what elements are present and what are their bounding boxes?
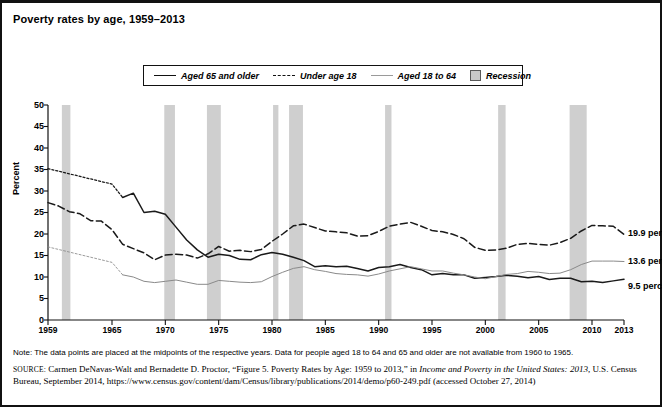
source-italic-2: 2013 <box>570 364 588 374</box>
figure-panel: Poverty rates by age, 1959–2013 Aged 65 … <box>0 0 662 407</box>
source-text-a: Carmen DeNavas-Walt and Bernadette D. Pr… <box>46 364 419 374</box>
recession-band <box>570 105 587 320</box>
chart-note: Note: The data points are placed at the … <box>13 347 653 359</box>
recession-band <box>289 105 303 320</box>
series-line-aged-18-to-64-unavailable <box>48 247 123 275</box>
annotation-under-age-18: 19.9 percent <box>628 228 662 238</box>
source-italic-1: Income and Poverty in the United States: <box>419 364 567 374</box>
recession-band <box>164 105 175 320</box>
recession-band <box>207 105 221 320</box>
axes-group <box>44 105 624 325</box>
chart-source: SOURCE: Carmen DeNavas-Walt and Bernadet… <box>13 364 653 387</box>
series-line-aged-65-and-older-unavailable <box>48 169 123 198</box>
series-line-aged-18-to-64 <box>123 261 624 284</box>
recession-bands-group <box>62 105 587 320</box>
source-text-c: October 27, 2014) <box>470 376 536 386</box>
recession-band <box>498 105 505 320</box>
series-group <box>48 169 624 285</box>
annotation-aged-65-and-older: 9.5 percent <box>628 281 662 291</box>
series-line-under-age-18 <box>48 203 624 260</box>
source-label: SOURCE: <box>13 365 46 374</box>
recession-band <box>273 105 278 320</box>
recession-band <box>385 105 391 320</box>
series-line-aged-65-and-older <box>123 193 624 282</box>
recession-band <box>62 105 71 320</box>
annotation-aged-18-to-64: 13.6 percent <box>628 256 662 266</box>
